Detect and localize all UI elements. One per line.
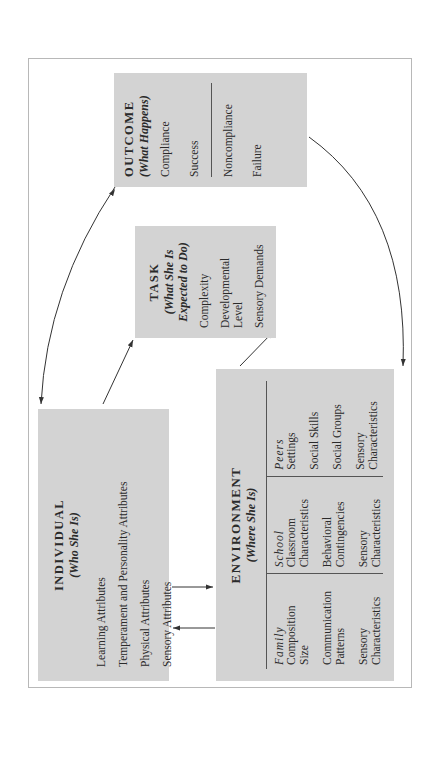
outcome-item: Success — [188, 83, 201, 177]
column-item: Behavioral Contingencies — [321, 489, 347, 567]
individual-item: Physical Attributes — [139, 423, 152, 667]
outcome-item: Failure — [251, 83, 264, 177]
task-box: TASK (What She Is Expected to Do) Comple… — [135, 226, 276, 338]
individual-title: INDIVIDUAL — [52, 423, 67, 667]
environment-columns: Family Composition Size Communication Pa… — [266, 381, 383, 669]
column-item: Classroom Characteristics — [285, 489, 311, 567]
arrow-individual-to-task — [103, 340, 133, 404]
environment-subtitle: (Where She Is) — [244, 381, 258, 669]
environment-column-school: School Classroom Characteristics Behavio… — [266, 477, 383, 575]
column-item: Sensory Characteristics — [357, 587, 383, 665]
task-subtitle: (What She Is — [162, 236, 176, 328]
task-item: Sensory Demands — [253, 236, 266, 328]
column-heading: School — [273, 483, 285, 568]
individual-subtitle: (Who She Is) — [67, 423, 81, 667]
arrow-outcome-to-environment — [309, 137, 403, 366]
column-item: Sensory Characteristics — [354, 392, 380, 470]
task-item: Developmental Level — [219, 258, 245, 328]
environment-column-peers: Peers Settings Social Skills Social Grou… — [266, 381, 383, 477]
task-title: TASK — [147, 236, 162, 328]
diagram-canvas: INDIVIDUAL (Who She Is) Learning Attribu… — [29, 59, 413, 689]
environment-box: ENVIRONMENT (Where She Is) Family Compos… — [216, 369, 394, 681]
individual-item: Temperament and Personality Attributes — [117, 423, 130, 667]
outcome-title: OUTCOME — [122, 83, 137, 177]
column-item: Social Groups — [331, 385, 344, 470]
column-item: Communication Patterns — [321, 587, 347, 665]
outcome-box: OUTCOME (What Happens) Compliance Succes… — [114, 73, 307, 187]
column-item: Settings — [285, 385, 298, 470]
column-item: Composition — [285, 580, 298, 665]
individual-item: Learning Attributes — [95, 423, 108, 667]
arrow-outcome-individual — [41, 187, 115, 404]
outcome-item: Noncompliance — [222, 83, 235, 177]
column-heading: Family — [273, 580, 285, 665]
column-heading: Peers — [273, 385, 285, 470]
environment-title: ENVIRONMENT — [228, 381, 244, 669]
outcome-divider — [211, 83, 212, 177]
environment-column-family: Family Composition Size Communication Pa… — [266, 574, 383, 669]
outcome-item: Compliance — [159, 83, 172, 177]
column-item: Size — [298, 580, 311, 665]
outcome-subtitle: (What Happens) — [137, 83, 151, 177]
individual-box: INDIVIDUAL (Who She Is) Learning Attribu… — [38, 409, 169, 681]
task-item: Complexity — [198, 236, 211, 328]
column-item: Sensory Characteristics — [357, 489, 383, 567]
task-subtitle: Expected to Do) — [176, 236, 190, 328]
column-item: Social Skills — [308, 385, 321, 470]
figure-frame: INDIVIDUAL (Who She Is) Learning Attribu… — [28, 58, 412, 688]
individual-item: Sensory Attributes — [161, 423, 174, 667]
